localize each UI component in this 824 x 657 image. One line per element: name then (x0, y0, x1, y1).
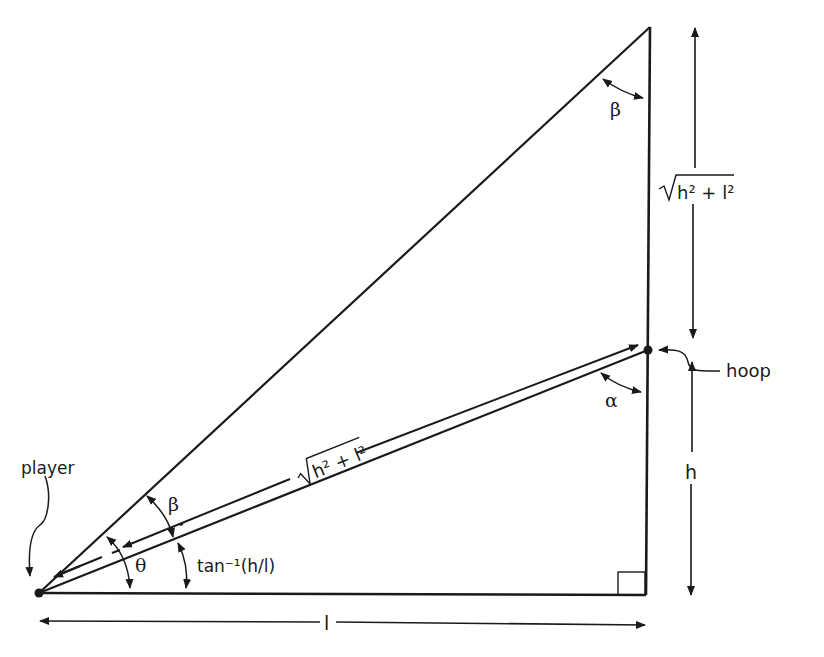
arctan-label: tan⁻¹(h/l) (197, 556, 275, 576)
shot-distance-sqrt-label: h² + l² (292, 437, 370, 488)
basketball-triangle-diagram: β α β θ tan⁻¹(h/l) player hoop h l h² + … (0, 0, 824, 657)
main-triangle (39, 27, 650, 595)
hypotenuse-line (39, 27, 650, 593)
l-label: l (324, 612, 329, 634)
svg-text:h² + l²: h² + l² (309, 441, 370, 482)
player-dot (35, 589, 44, 598)
base-line (39, 593, 646, 595)
alpha-label: α (605, 389, 618, 411)
vertical-side-line (646, 27, 650, 595)
beta-top-label: β (610, 98, 621, 120)
beta-bottom-label: β (168, 493, 179, 515)
hoop-pointer-arrow (659, 350, 720, 371)
hoop-dot (644, 346, 653, 355)
beta-top-arc (603, 79, 643, 98)
h-label: h (685, 461, 697, 483)
player-pointer-arrow (29, 476, 48, 576)
hoop-label: hoop (726, 360, 771, 381)
hypotenuse-side-sqrt-label: h² + l² (659, 175, 734, 203)
theta-label: θ (135, 554, 146, 576)
right-angle-marker (618, 572, 645, 595)
svg-text:h² + l²: h² + l² (677, 182, 734, 203)
l-dimension-arrow (40, 621, 645, 625)
arctan-arc (178, 543, 187, 588)
player-label: player (21, 458, 74, 478)
